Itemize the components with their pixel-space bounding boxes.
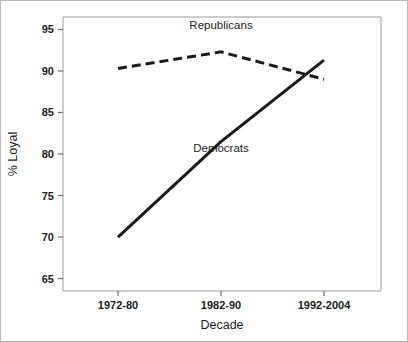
series-annotation-republicans: Republicans bbox=[189, 19, 253, 31]
x-axis-title: Decade bbox=[200, 318, 243, 332]
y-tick-label: 85 bbox=[42, 106, 54, 118]
y-tick-label: 95 bbox=[42, 23, 54, 35]
y-axis-ticks bbox=[58, 29, 63, 278]
x-tick-label: 1992-2004 bbox=[298, 299, 351, 311]
chart-figure: 65707580859095 1972-801982-901992-2004 R… bbox=[0, 0, 408, 342]
x-tick-label: 1972-80 bbox=[98, 299, 138, 311]
series-annotation-democrats: Democrats bbox=[193, 142, 249, 154]
y-axis-tick-labels: 65707580859095 bbox=[42, 23, 54, 284]
x-axis-ticks bbox=[118, 291, 324, 296]
y-tick-label: 70 bbox=[42, 231, 54, 243]
y-tick-label: 65 bbox=[42, 273, 54, 285]
y-tick-label: 80 bbox=[42, 148, 54, 160]
y-tick-label: 75 bbox=[42, 190, 54, 202]
line-chart: 65707580859095 1972-801982-901992-2004 R… bbox=[1, 1, 408, 342]
x-axis-tick-labels: 1972-801982-901992-2004 bbox=[98, 299, 351, 311]
x-tick-label: 1982-90 bbox=[201, 299, 241, 311]
y-axis-title: % Loyal bbox=[6, 132, 20, 176]
y-tick-label: 90 bbox=[42, 65, 54, 77]
